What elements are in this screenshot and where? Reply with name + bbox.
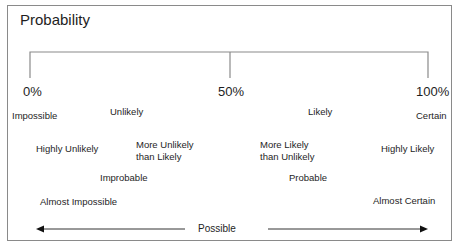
possible-label: Possible — [198, 223, 236, 235]
term-certain: Certain — [416, 110, 447, 122]
term-more-likely-than-unlikely-line2: than Unlikely — [260, 151, 314, 163]
term-likely: Likely — [308, 106, 332, 118]
term-improbable: Improbable — [100, 172, 148, 184]
term-highly-likely: Highly Likely — [381, 143, 434, 155]
term-more-unlikely-than-likely-line1: More Unlikely — [136, 139, 194, 151]
diagram-title: Probability — [20, 11, 90, 28]
term-almost-impossible: Almost Impossible — [40, 196, 117, 208]
term-impossible: Impossible — [12, 110, 57, 122]
term-almost-certain: Almost Certain — [373, 195, 435, 207]
arrow-left-head — [36, 226, 44, 233]
term-highly-unlikely: Highly Unlikely — [36, 143, 98, 155]
scale-bracket — [30, 52, 428, 78]
arrow-right-head — [420, 226, 428, 233]
scale-label-0: 0% — [23, 84, 42, 99]
term-more-likely-than-unlikely-line1: More Likely — [260, 139, 309, 151]
scale-label-50: 50% — [218, 84, 244, 99]
scale-label-100: 100% — [416, 84, 449, 99]
scale-lines — [0, 0, 459, 250]
term-unlikely: Unlikely — [110, 106, 143, 118]
term-probable: Probable — [289, 172, 327, 184]
term-more-unlikely-than-likely-line2: than Likely — [136, 151, 181, 163]
